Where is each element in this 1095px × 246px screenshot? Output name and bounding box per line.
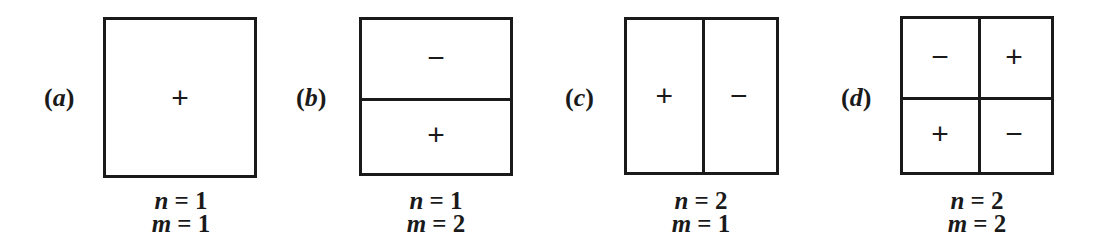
- panel-b-m-value: m = 2: [376, 211, 496, 236]
- m-var: m: [152, 210, 171, 237]
- horizontal-divider: [362, 98, 510, 101]
- label-paren-close: ): [585, 83, 594, 112]
- m-val: 1: [718, 210, 731, 237]
- label-paren-open: (: [565, 83, 574, 112]
- label-letter: b: [305, 83, 318, 112]
- plus-sign: +: [165, 83, 195, 113]
- panel-b-box: − +: [359, 17, 513, 176]
- plus-sign: +: [421, 120, 451, 150]
- m-var: m: [948, 210, 967, 237]
- panel-d-m-value: m = 2: [917, 211, 1037, 236]
- equals: =: [171, 210, 198, 237]
- plus-sign: +: [925, 119, 955, 149]
- minus-sign: −: [421, 43, 451, 73]
- panel-d-box: − + + −: [900, 16, 1054, 175]
- horizontal-divider: [903, 97, 1051, 100]
- label-letter: d: [850, 83, 863, 112]
- panel-d-label: (d): [841, 83, 871, 113]
- panel-c-label: (c): [565, 83, 594, 113]
- label-paren-close: ): [66, 83, 75, 112]
- minus-sign: −: [925, 42, 955, 72]
- label-paren-open: (: [841, 83, 850, 112]
- panel-a-box: +: [103, 17, 257, 178]
- equals: =: [691, 210, 718, 237]
- label-letter: c: [574, 83, 586, 112]
- minus-sign: −: [999, 119, 1029, 149]
- label-paren-open: (: [296, 83, 305, 112]
- label-paren-open: (: [44, 83, 53, 112]
- equals: =: [967, 210, 994, 237]
- m-var: m: [672, 210, 691, 237]
- m-val: 2: [453, 210, 466, 237]
- m-val: 2: [994, 210, 1007, 237]
- panel-a-m-value: m = 1: [121, 211, 241, 236]
- plus-sign: +: [649, 81, 679, 111]
- panel-a-label: (a): [44, 83, 74, 113]
- label-letter: a: [53, 83, 66, 112]
- plus-sign: +: [999, 42, 1029, 72]
- panel-b-label: (b): [296, 83, 326, 113]
- label-paren-close: ): [863, 83, 872, 112]
- vertical-divider: [702, 20, 705, 172]
- equals: =: [426, 210, 453, 237]
- panel-c-box: + −: [624, 17, 779, 175]
- m-var: m: [407, 210, 426, 237]
- panel-c-m-value: m = 1: [641, 211, 761, 236]
- m-val: 1: [198, 210, 211, 237]
- minus-sign: −: [724, 81, 754, 111]
- label-paren-close: ): [318, 83, 327, 112]
- vertical-divider: [978, 19, 981, 172]
